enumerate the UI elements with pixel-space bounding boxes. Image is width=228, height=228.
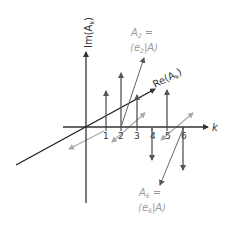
tick-label-1: 1	[103, 131, 109, 141]
k-axis-label: k	[212, 122, 219, 133]
tick-label-2: 2	[118, 131, 124, 141]
imag-axis-label: Im(Ak)	[83, 17, 95, 48]
tick-label-3: 3	[134, 131, 140, 141]
a2-braket: ⟨e2|A⟩	[130, 42, 158, 54]
tick-label-4: 4	[150, 131, 156, 141]
a6-label: A6 =	[138, 187, 161, 199]
a2-annotation: A2 = ⟨e2|A⟩	[130, 27, 158, 54]
a6-braket: ⟨e6|A⟩	[138, 202, 166, 214]
real-axis-label: Re(Ak)	[151, 66, 184, 91]
tick-label-5: 5	[165, 131, 171, 141]
a2-label: A2 =	[130, 27, 153, 39]
component-arrows	[106, 73, 183, 170]
gray-real-arrows	[69, 113, 193, 149]
tick-label-6: 6	[181, 131, 187, 141]
complex-vector-diagram: 1 2 3 4 5 6 k Im(Ak) Re(Ak) A2 = ⟨e2|A⟩ …	[0, 0, 228, 228]
a6-annotation: A6 = ⟨e6|A⟩	[138, 187, 166, 214]
